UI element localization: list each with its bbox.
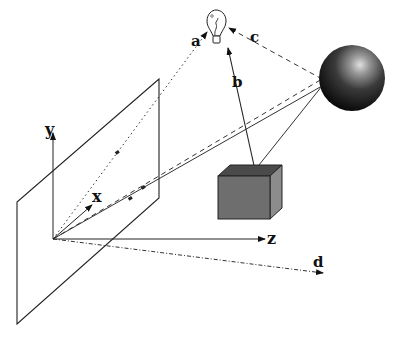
ray-c-label: c [250, 28, 259, 46]
ray-to-sphere-solid [53, 86, 322, 239]
z-axis-label: z [267, 229, 276, 248]
ray-b-solid [228, 48, 255, 170]
x-axis [53, 205, 92, 239]
reflective-sphere [319, 45, 385, 111]
ray-a-label: a [191, 32, 201, 50]
diagram-canvas: y x z a b c d [0, 0, 397, 340]
ray-b-label: b [232, 73, 243, 91]
x-axis-label: x [92, 187, 102, 206]
y-axis-label: y [44, 120, 55, 139]
pixel-markers [115, 150, 146, 201]
ray-c-dashed [229, 28, 322, 79]
gray-cube [218, 165, 282, 219]
ray-a-dotted [53, 32, 207, 239]
image-plane [17, 79, 159, 324]
ray-d-label: d [313, 253, 324, 271]
ray-to-sphere-dashed [53, 79, 322, 239]
light-bulb-icon [207, 10, 226, 43]
